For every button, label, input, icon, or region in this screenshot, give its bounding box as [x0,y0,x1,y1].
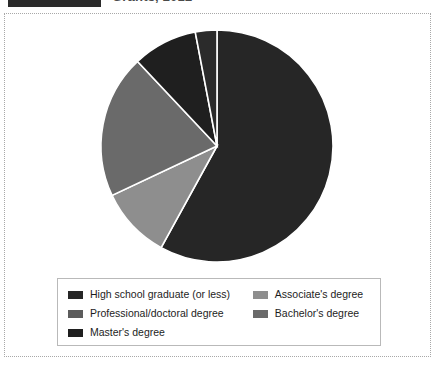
legend-row: Master's degree [58,323,380,342]
pie-chart [5,14,432,264]
legend-item-high-school[interactable]: High school graduate (or less) [58,285,253,304]
chart-frame: High school graduate (or less) Associate… [4,13,431,357]
legend-row: Professional/doctoral degree Bachelor's … [58,304,380,323]
pie-slice-group [101,30,333,262]
legend-item-professional-doctoral[interactable]: Professional/doctoral degree [58,304,253,323]
header-color-bar [8,0,101,7]
legend-item-empty [253,323,380,342]
legend-label-high-school: High school graduate (or less) [90,289,230,300]
legend-label-bachelors: Bachelor's degree [275,308,359,319]
page-title: Grants, 2012 [112,0,192,4]
legend-swatch-professional-doctoral [68,310,83,318]
legend-item-associates[interactable]: Associate's degree [253,285,380,304]
chart-legend: High school graduate (or less) Associate… [57,278,381,346]
legend-label-associates: Associate's degree [275,289,363,300]
legend-item-masters[interactable]: Master's degree [58,323,253,342]
legend-swatch-bachelors [253,310,268,318]
legend-swatch-associates [253,291,268,299]
header-strip: Grants, 2012 [0,0,437,9]
pie-chart-svg [5,14,432,264]
legend-label-professional-doctoral: Professional/doctoral degree [90,308,224,319]
legend-label-masters: Master's degree [90,327,165,338]
legend-item-bachelors[interactable]: Bachelor's degree [253,304,380,323]
legend-row: High school graduate (or less) Associate… [58,285,380,304]
legend-swatch-masters [68,329,83,337]
legend-swatch-high-school [68,291,83,299]
